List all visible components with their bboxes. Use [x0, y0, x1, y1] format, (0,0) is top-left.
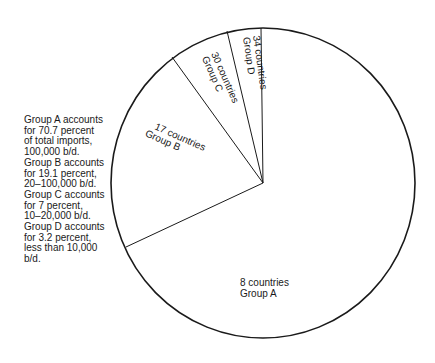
pie-chart: 8 countries Group A 17 countries Group B… — [0, 0, 435, 363]
slice-a-countries: 8 countries — [240, 277, 289, 288]
slice-a-group: Group A — [240, 288, 277, 299]
